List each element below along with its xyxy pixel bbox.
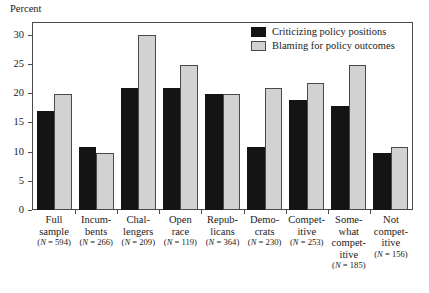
legend-item: Blaming for policy outcomes — [251, 40, 411, 53]
y-axis-tick-label: 30 — [14, 28, 25, 41]
x-axis-label-sample-size: (N = 185) — [324, 260, 374, 272]
bar — [96, 153, 114, 210]
bar — [180, 65, 198, 211]
bar — [79, 147, 97, 210]
y-axis-tick-mark — [28, 35, 32, 36]
y-axis-tick-label: 10 — [14, 145, 25, 158]
legend-item: Criticizing policy positions — [251, 26, 411, 39]
bar — [247, 147, 265, 210]
bar — [331, 106, 349, 210]
y-axis-tick-label: 5 — [19, 174, 24, 187]
x-axis-labels: Fullsample(N = 594)Incum-bents(N = 266)C… — [33, 214, 412, 293]
y-axis-tick-mark — [28, 122, 32, 123]
bar — [37, 111, 55, 210]
bar — [307, 83, 325, 210]
y-axis-tick-mark — [28, 64, 32, 65]
legend-swatch — [251, 41, 266, 51]
y-axis-tick-label: 25 — [14, 57, 25, 70]
bar — [138, 35, 156, 210]
y-axis-title: Percent — [10, 3, 42, 15]
legend-label: Criticizing policy positions — [272, 25, 386, 39]
legend-label: Blaming for policy outcomes — [272, 39, 395, 53]
bar — [163, 88, 181, 210]
bar — [223, 94, 241, 210]
bar — [205, 94, 223, 210]
bar — [121, 88, 139, 210]
bar — [391, 147, 409, 210]
bar — [289, 100, 307, 210]
chart-legend: Criticizing policy positionsBlaming for … — [251, 26, 411, 54]
y-axis-tick-mark — [28, 181, 32, 182]
legend-swatch — [251, 27, 266, 37]
bar — [349, 65, 367, 211]
bar-chart: Percent 051015202530 Fullsample(N = 594)… — [0, 0, 429, 293]
y-axis-tick-mark — [28, 210, 32, 211]
x-axis-label: Notcompet-itive(N = 156) — [366, 214, 416, 260]
y-axis-tick-mark — [28, 152, 32, 153]
y-axis-tick-label: 0 — [19, 203, 24, 216]
y-axis-tick-label: 20 — [14, 86, 25, 99]
y-axis-tick-mark — [28, 93, 32, 94]
x-axis-label-line: itive — [366, 237, 416, 249]
y-axis-tick-label: 15 — [14, 115, 25, 128]
x-axis-label-line: compet- — [366, 226, 416, 238]
bar — [265, 88, 283, 210]
x-axis-label-sample-size: (N = 156) — [366, 249, 416, 261]
bar — [54, 94, 72, 210]
bar — [373, 153, 391, 210]
x-axis-label-line: Not — [366, 214, 416, 226]
